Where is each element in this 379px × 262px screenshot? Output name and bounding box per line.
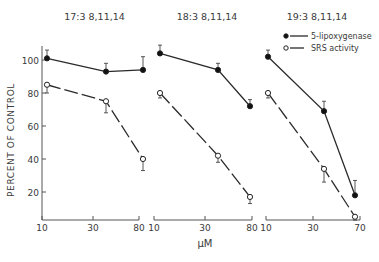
filled-marker bbox=[215, 67, 220, 72]
y-axis-label: PERCENT OF CONTROL bbox=[6, 83, 16, 197]
open-marker bbox=[247, 194, 252, 199]
x-tick-label: 10 bbox=[260, 223, 272, 233]
panel-1: 17:3 8,11,14103080 bbox=[36, 11, 145, 233]
srs-activity-line bbox=[268, 93, 355, 217]
x-tick-label: 30 bbox=[199, 223, 211, 233]
filled-marker bbox=[140, 67, 145, 72]
open-marker bbox=[265, 90, 270, 95]
filled-marker bbox=[265, 54, 270, 59]
open-marker bbox=[157, 90, 162, 95]
legend-open-marker bbox=[284, 46, 288, 50]
open-marker bbox=[352, 214, 357, 219]
filled-marker bbox=[321, 109, 326, 114]
panel-title: 19:3 8,11,14 bbox=[287, 11, 348, 22]
panel-2: 18:3 8,11,14103080 bbox=[148, 11, 258, 233]
legend-label: SRS activity bbox=[311, 44, 359, 53]
x-tick-label: 70 bbox=[354, 223, 366, 233]
y-tick-label: 40 bbox=[28, 155, 40, 165]
lipoxygenase-line bbox=[160, 53, 250, 106]
y-tick-label: 60 bbox=[28, 122, 40, 132]
x-tick-label: 80 bbox=[133, 223, 145, 233]
y-tick-label: 100 bbox=[22, 56, 39, 66]
x-tick-label: 80 bbox=[246, 223, 258, 233]
filled-marker bbox=[103, 69, 108, 74]
x-tick-label: 30 bbox=[307, 223, 319, 233]
lipoxygenase-line bbox=[268, 57, 355, 196]
x-tick-label: 30 bbox=[87, 223, 99, 233]
lipoxygenase-line bbox=[47, 58, 143, 71]
legend-label: 5-lipoxygenase bbox=[311, 32, 372, 41]
filled-marker bbox=[44, 56, 49, 61]
open-marker bbox=[140, 156, 145, 161]
legend-filled-marker bbox=[284, 34, 288, 38]
y-tick-label: 20 bbox=[28, 188, 40, 198]
legend: 5-lipoxygenaseSRS activity bbox=[284, 32, 372, 53]
panel-title: 17:3 8,11,14 bbox=[64, 11, 125, 22]
x-axis-title: μM bbox=[198, 238, 213, 249]
filled-marker bbox=[247, 104, 252, 109]
y-tick-label: 80 bbox=[28, 89, 40, 99]
srs-activity-line bbox=[47, 85, 143, 159]
open-marker bbox=[103, 99, 108, 104]
srs-activity-line bbox=[160, 93, 250, 197]
chart-figure: PERCENT OF CONTROL 20406080100 17:3 8,11… bbox=[0, 0, 379, 262]
open-marker bbox=[44, 82, 49, 87]
y-axis-title: PERCENT OF CONTROL bbox=[6, 83, 16, 197]
x-tick-label: 10 bbox=[36, 223, 48, 233]
open-marker bbox=[215, 153, 220, 158]
filled-marker bbox=[157, 51, 162, 56]
x-tick-label: 10 bbox=[148, 223, 160, 233]
y-axis: 20406080100 bbox=[22, 46, 46, 220]
panel-title: 18:3 8,11,14 bbox=[177, 11, 238, 22]
open-marker bbox=[321, 166, 326, 171]
filled-marker bbox=[352, 193, 357, 198]
